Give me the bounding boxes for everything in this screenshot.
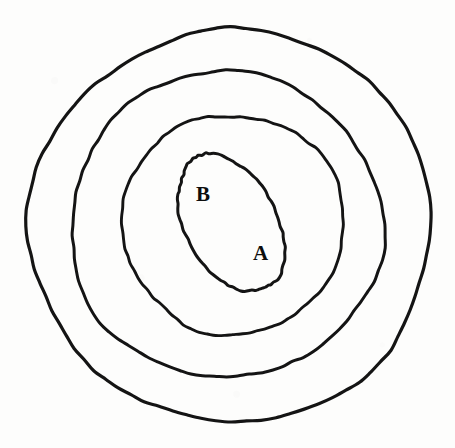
region-label-a: A — [253, 243, 268, 264]
contour-canvas — [0, 0, 455, 448]
contour-diagram-figure: B A — [0, 0, 455, 448]
region-label-b: B — [196, 184, 210, 205]
figure-background — [0, 0, 455, 448]
